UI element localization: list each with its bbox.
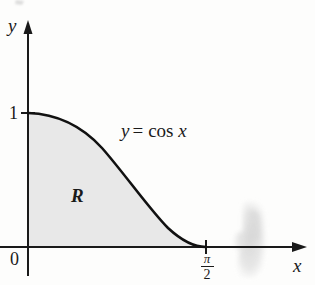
- two-denominator: 2: [198, 267, 216, 282]
- y-tick-label-one: 1: [9, 104, 18, 122]
- curve-equation-equals: =: [129, 120, 146, 141]
- figure-canvas: [0, 0, 315, 285]
- scan-smudge-artifact: [234, 202, 265, 277]
- x-tick-label-pi-over-two: π 2: [198, 252, 216, 282]
- curve-equation-label: y=cos x: [121, 121, 187, 140]
- x-axis-arrowhead: [292, 242, 307, 252]
- cosine-region-figure: y x 1 0 R y=cos x π 2: [0, 0, 315, 285]
- region-label-R: R: [71, 186, 84, 205]
- y-axis-label: y: [8, 16, 16, 35]
- y-axis-arrowhead: [24, 20, 33, 34]
- top-edge-artifact: [15, 0, 24, 5]
- curve-equation-x: x: [178, 120, 186, 141]
- x-axis-label: x: [293, 256, 301, 275]
- origin-label-zero: 0: [10, 250, 19, 268]
- curve-equation-cos: cos: [146, 120, 173, 141]
- pi-numerator: π: [198, 252, 216, 266]
